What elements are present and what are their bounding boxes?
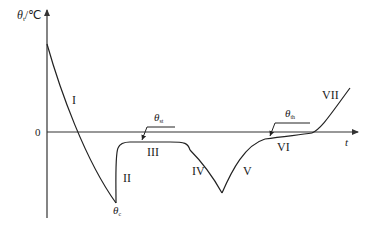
stage-label-V: V xyxy=(243,164,252,178)
stage-label-III: III xyxy=(147,145,159,159)
theta-st-leader xyxy=(142,127,175,140)
stage-label-I: I xyxy=(72,93,76,107)
curve-stage-I xyxy=(47,44,116,203)
stage-label-IV: IV xyxy=(192,164,205,178)
theta-st-label: θst xyxy=(154,111,164,124)
stage-label-VI: VI xyxy=(277,140,290,154)
curve-stage-III xyxy=(130,142,190,150)
theta-th-label: θth xyxy=(285,107,295,120)
curve-stage-VI xyxy=(265,133,312,139)
temperature-curve-diagram: 0 t I II III IV V VI VII θc θst θth xyxy=(0,0,378,232)
theta-c-label: θc xyxy=(113,204,121,217)
stage-label-II: II xyxy=(123,171,131,185)
stage-label-VII: VII xyxy=(322,88,339,102)
x-axis-label: t xyxy=(345,136,349,148)
zero-label: 0 xyxy=(35,126,41,138)
